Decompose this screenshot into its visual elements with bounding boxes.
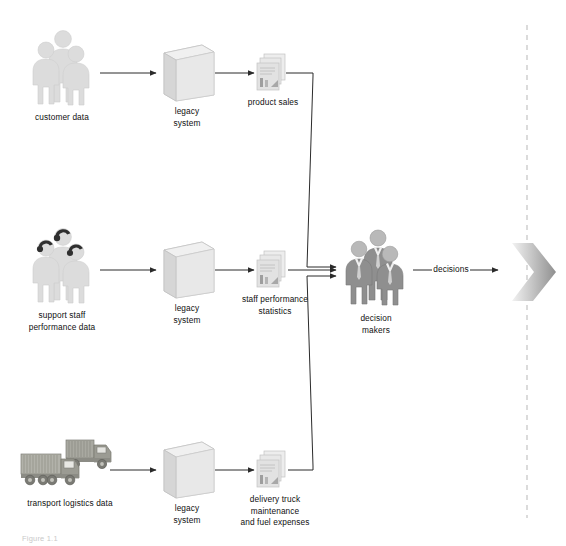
document-stack-icon (255, 53, 289, 93)
3d-box-icon (158, 238, 216, 302)
headset-people-group-icon (22, 226, 102, 304)
document-stack-icon (255, 450, 289, 490)
document-stack-icon (255, 250, 289, 290)
3d-box-icon (158, 41, 216, 105)
3d-box-icon (158, 438, 216, 502)
customer-data-label: customer data (10, 112, 114, 124)
support-staff-performance-data-label: support staff performance data (6, 310, 118, 333)
staff-performance-statistics-label: staff performance statistics (230, 294, 320, 317)
decision-makers-label: decision makers (334, 313, 418, 336)
delivery-truck-expenses-label: delivery truck maintenance and fuel expe… (227, 494, 323, 529)
legacy-system-label-1: legacy system (150, 106, 224, 129)
chevron-arrow-icon (512, 243, 556, 301)
figure-caption: Figure 1.1 (22, 534, 58, 543)
transport-logistics-data-label: transport logistics data (0, 498, 140, 510)
people-group-icon (22, 28, 102, 106)
diagram-canvas: customer data legacy system product sale… (0, 0, 566, 546)
businesspeople-group-icon (338, 228, 414, 306)
decisions-label: decisions (426, 264, 476, 276)
container-trucks-icon (18, 436, 116, 492)
legacy-system-label-3: legacy system (150, 503, 224, 526)
legacy-system-label-2: legacy system (150, 303, 224, 326)
product-sales-label: product sales (235, 97, 311, 109)
